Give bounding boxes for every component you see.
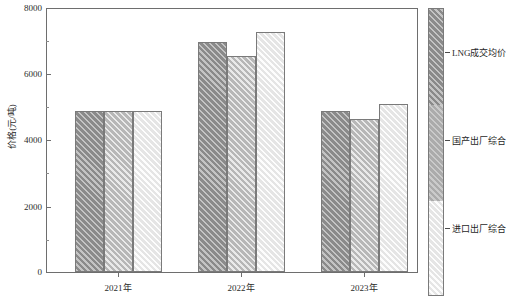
x-tick-mark-2023 [364, 272, 365, 277]
legend-tick-import [445, 228, 450, 229]
y-axis-label: 价格(元/吨) [5, 87, 18, 167]
legend-label-domestic: 国产出厂综合 [452, 134, 506, 147]
bar-2023-domestic[interactable] [350, 119, 379, 272]
legend-swatch-domestic[interactable] [429, 105, 443, 201]
bar-2023-lng[interactable] [321, 111, 350, 272]
legend-tick-domestic [445, 140, 450, 141]
y-tick-mark-0 [46, 272, 51, 273]
bar-2022-import[interactable] [256, 32, 285, 272]
bar-2021-import[interactable] [133, 111, 162, 272]
legend-label-import: 进口出厂综合 [452, 222, 506, 235]
x-tick-mark-2022 [241, 272, 242, 277]
y-tick-label-4000: 4000 [4, 135, 42, 145]
y-tick-label-8000: 8000 [4, 3, 42, 13]
y-tick-label-2000: 2000 [4, 202, 42, 212]
bar-2021-domestic[interactable] [104, 111, 133, 272]
bars-layer [47, 9, 417, 272]
legend-colorbar [428, 8, 444, 296]
bar-2022-domestic[interactable] [227, 56, 256, 272]
bar-2021-lng[interactable] [75, 111, 104, 272]
x-tick-label-2023: 2023年 [324, 281, 404, 294]
legend-label-lng: LNG成交均价 [452, 46, 507, 59]
bar-2023-import[interactable] [379, 104, 408, 272]
y-tick-label-0: 0 [4, 267, 42, 277]
x-tick-label-2021: 2021年 [78, 281, 158, 294]
x-tick-mark-2021 [118, 272, 119, 277]
legend-swatch-lng[interactable] [429, 9, 443, 105]
bar-2022-lng[interactable] [198, 42, 227, 272]
legend-tick-lng [445, 52, 450, 53]
chart-root: 价格(元/吨) 8000 6000 4000 2000 0 2021年 2022… [0, 0, 508, 304]
legend-swatch-import[interactable] [429, 201, 443, 296]
x-tick-label-2022: 2022年 [201, 281, 281, 294]
y-tick-label-6000: 6000 [4, 69, 42, 79]
